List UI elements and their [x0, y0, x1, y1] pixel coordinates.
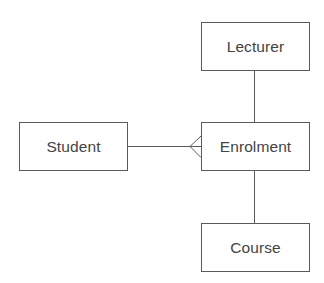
entity-label: Student: [46, 138, 100, 156]
entity-student: Student: [19, 122, 128, 171]
entity-label: Course: [230, 239, 281, 257]
entity-course: Course: [201, 223, 310, 272]
entity-enrolment: Enrolment: [201, 122, 310, 171]
entity-lecturer: Lecturer: [201, 22, 310, 71]
er-diagram: Lecturer Student Enrolment Course: [0, 0, 324, 283]
entity-label: Lecturer: [227, 38, 285, 56]
entity-label: Enrolment: [220, 138, 292, 156]
